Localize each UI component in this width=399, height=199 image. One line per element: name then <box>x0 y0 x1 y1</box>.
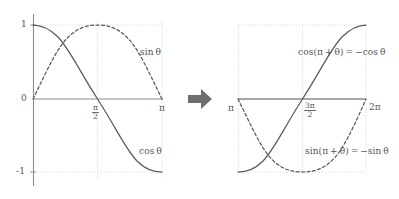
right-x-tick-pi-label: π <box>228 104 234 113</box>
three-half-pi-numerator: 3π <box>304 102 316 110</box>
trig-shift-figure: 1 0 -1 π 2 π sin θ cos θ <box>0 0 399 199</box>
left-plot-canvas <box>0 0 199 199</box>
three-half-pi-denominator: 2 <box>304 110 316 119</box>
right-x-tick-two-pi-label: 2π <box>369 103 381 112</box>
left-y-tick-zero-label: 0 <box>21 94 27 103</box>
left-x-tick-half-pi-label: π 2 <box>92 104 99 121</box>
sin-theta-curve-label: sin θ <box>140 48 161 57</box>
curve-sin-pi-plus-theta <box>238 99 366 172</box>
right-plot-canvas <box>199 0 398 199</box>
right-plot-panel: π 3π 2 2π cos(π + θ) = −cos θ sin(π + θ)… <box>199 0 398 199</box>
half-pi-fraction: π 2 <box>92 104 99 121</box>
left-x-tick-pi-label: π <box>159 104 165 113</box>
cos-theta-curve-label: cos θ <box>139 147 162 156</box>
left-y-tick-minus-one-label: -1 <box>16 167 25 176</box>
left-y-tick-one-label: 1 <box>21 20 27 29</box>
sin-identity-label: sin(π + θ) = −sin θ <box>305 147 389 156</box>
half-pi-numerator: π <box>92 104 99 112</box>
cos-identity-label: cos(π + θ) = −cos θ <box>298 48 385 57</box>
three-half-pi-fraction: 3π 2 <box>304 102 316 119</box>
half-pi-denominator: 2 <box>92 112 99 121</box>
left-plot-panel: 1 0 -1 π 2 π sin θ cos θ <box>0 0 199 199</box>
right-x-tick-three-half-pi-label: 3π 2 <box>304 102 316 119</box>
